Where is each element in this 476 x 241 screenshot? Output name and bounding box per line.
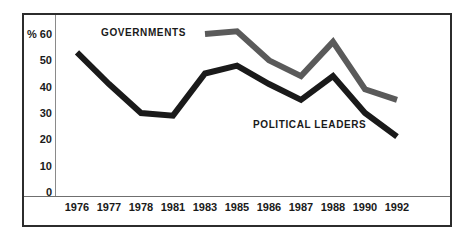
y-tick-0: 0 (6, 187, 52, 198)
x-tick-1977: 1977 (91, 200, 127, 214)
series-label-political-leaders: POLITICAL LEADERS (253, 119, 366, 130)
x-axis-line (24, 196, 450, 197)
y-tick-30: 30 (6, 108, 52, 119)
x-tick-1981: 1981 (155, 200, 191, 214)
y-tick-10: 10 (6, 161, 52, 172)
plot-area (55, 15, 450, 196)
x-tick-1990: 1990 (347, 200, 383, 214)
y-tick-50: 50 (6, 55, 52, 66)
series-label-governments: GOVERNMENTS (101, 27, 186, 38)
x-tick-1988: 1988 (315, 200, 351, 214)
y-tick-60: % 60 (6, 29, 52, 40)
y-tick-20: 20 (6, 134, 52, 145)
y-axis-tick-labels: % 6050403020100 (4, 0, 52, 241)
x-tick-1976: 1976 (59, 200, 95, 214)
x-tick-1986: 1986 (251, 200, 287, 214)
chart-figure: % 6050403020100 197619771978198119831985… (0, 0, 476, 241)
series-lines (55, 15, 450, 196)
x-tick-1987: 1987 (283, 200, 319, 214)
x-tick-1992: 1992 (379, 200, 415, 214)
x-tick-1983: 1983 (187, 200, 223, 214)
x-tick-1978: 1978 (123, 200, 159, 214)
x-tick-1985: 1985 (219, 200, 255, 214)
y-tick-40: 40 (6, 82, 52, 93)
x-axis-tick-labels: 1976197719781981198319851986198719881990… (55, 200, 450, 218)
